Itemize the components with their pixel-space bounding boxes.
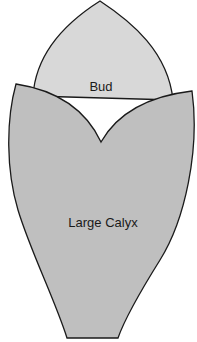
bud-label: Bud (89, 79, 112, 94)
flower-diagram: Bud Large Calyx (0, 0, 197, 342)
calyx-label: Large Calyx (68, 215, 138, 230)
calyx-shape (9, 84, 194, 338)
